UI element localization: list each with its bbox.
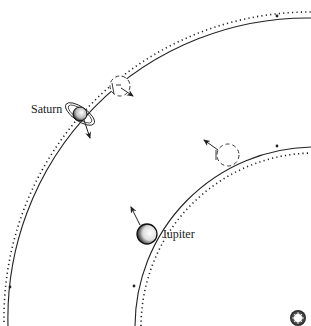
- orbit-svg: [0, 0, 311, 326]
- sun-star-icon: [290, 310, 306, 326]
- saturn-planet: [62, 99, 98, 138]
- jupiter-orbit: [133, 145, 311, 326]
- saturn-ghost-position: [110, 76, 133, 96]
- jupiter-ghost-position: [204, 140, 239, 166]
- jupiter-motion-arrow-icon: [131, 207, 140, 225]
- saturn-orbit: [4, 12, 311, 326]
- jupiter-orbit-tick: [133, 285, 136, 288]
- jupiter-orbit-tick: [276, 145, 279, 148]
- saturn-label: Saturn: [31, 103, 62, 115]
- jupiter-planet: [131, 207, 157, 244]
- saturn-orbit-tick: [9, 286, 12, 289]
- orbit-diagram: Saturn Jupiter: [0, 0, 311, 326]
- jupiter-label: Jupiter: [162, 228, 195, 240]
- saturn-orbit-tick: [276, 15, 279, 18]
- jupiter-ghost-motion-arrow-icon: [204, 140, 218, 150]
